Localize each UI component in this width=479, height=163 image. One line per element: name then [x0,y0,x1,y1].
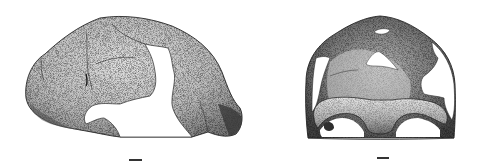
scale-bar-frontal [377,157,389,159]
figure-canvas [0,0,479,163]
frontal-skull-view [306,16,456,140]
skull-illustration [0,0,479,163]
scale-bar-lateral [129,159,142,161]
lateral-skull-view [26,16,242,137]
